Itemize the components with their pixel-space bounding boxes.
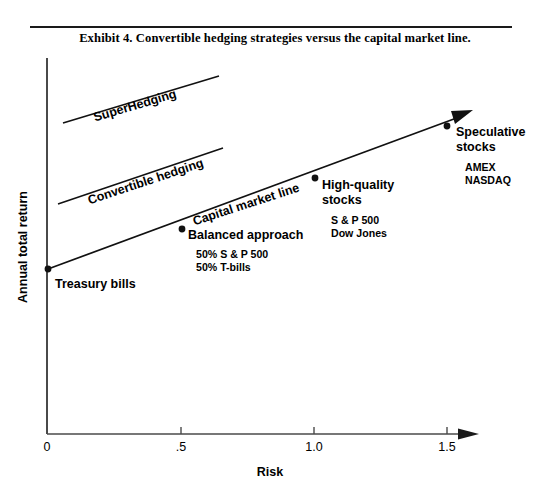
data-point-speculative-stocks: [444, 123, 451, 130]
high-quality-title-line-2: stocks: [322, 193, 394, 208]
speculative-details: AMEX NASDAQ: [465, 161, 525, 187]
high-quality-line-2: Dow Jones: [331, 227, 394, 240]
x-tick-label-0: 0: [27, 440, 67, 454]
x-tick-label-1-5: 1.5: [427, 440, 467, 454]
capital-market-line-arrow-icon: [451, 110, 473, 124]
annotation-balanced-approach: Balanced approach 50% S & P 500 50% T-bi…: [188, 228, 303, 274]
balanced-approach-details: 50% S & P 500 50% T-bills: [196, 248, 303, 274]
speculative-line-1: AMEX: [465, 161, 525, 174]
x-tick-label-1-0: 1.0: [294, 440, 334, 454]
high-quality-line-1: S & P 500: [331, 214, 394, 227]
balanced-approach-line-1: 50% S & P 500: [196, 248, 303, 261]
high-quality-details: S & P 500 Dow Jones: [331, 214, 394, 240]
annotation-high-quality-stocks: High-quality stocks S & P 500 Dow Jones: [322, 178, 394, 240]
exhibit-figure: Exhibit 4. Convertible hedging strategie…: [0, 0, 540, 497]
annotation-speculative-stocks: Speculative stocks AMEX NASDAQ: [456, 125, 525, 187]
balanced-approach-line-2: 50% T-bills: [196, 261, 303, 274]
data-point-high-quality-stocks: [312, 175, 319, 182]
y-axis-title: Annual total return: [16, 162, 30, 332]
x-axis-title: Risk: [0, 465, 540, 479]
balanced-approach-title: Balanced approach: [188, 228, 303, 243]
annotation-treasury-bills: Treasury bills: [55, 277, 136, 292]
speculative-title-line-1: Speculative: [456, 125, 525, 140]
speculative-line-2: NASDAQ: [465, 174, 525, 187]
x-axis-arrow-icon: [458, 429, 479, 440]
data-point-balanced-approach: [179, 226, 186, 233]
high-quality-title-line-1: High-quality: [322, 178, 394, 193]
data-point-treasury-bills: [45, 266, 52, 273]
x-tick-label-0-5: .5: [161, 440, 201, 454]
speculative-title-line-2: stocks: [456, 140, 525, 155]
